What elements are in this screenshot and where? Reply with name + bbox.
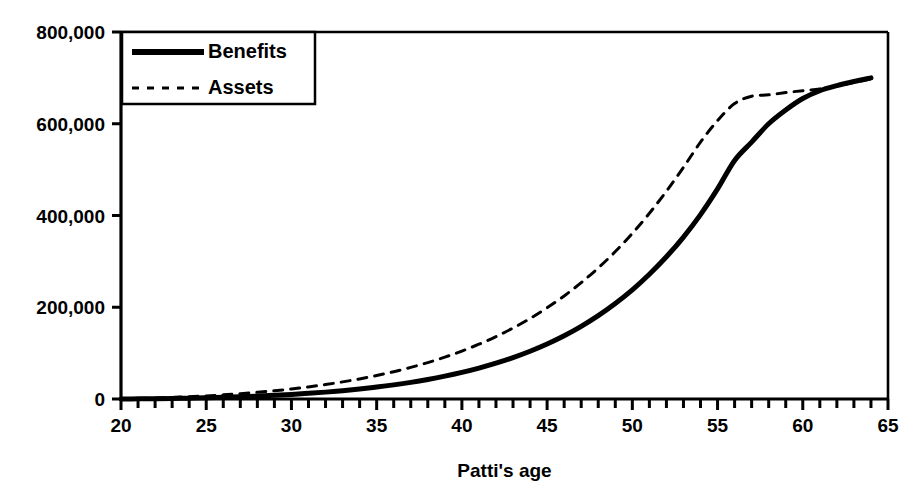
y-axis-tick-label: 600,000 [36,114,105,135]
x-axis-tick-label: 50 [622,415,643,436]
y-axis-tick-label: 800,000 [36,22,105,43]
x-axis-ticks [121,399,888,410]
x-axis-tick-label: 25 [196,415,218,436]
y-axis-tick-label: 200,000 [36,297,105,318]
x-axis-tick-label: 30 [281,415,302,436]
x-axis-tick-labels: 20253035404550556065 [110,415,899,436]
x-axis-tick-label: 20 [110,415,131,436]
x-axis-title: Patti's age [457,460,551,481]
x-axis-tick-label: 40 [451,415,472,436]
series-line-benefits [121,78,871,399]
y-axis-tick-labels: 0200,000400,000600,000800,000 [36,22,105,410]
x-axis-tick-label: 35 [366,415,388,436]
legend-label-assets: Assets [208,76,274,98]
x-axis-tick-label: 60 [792,415,813,436]
legend-label-benefits: Benefits [208,40,287,62]
line-chart: 0200,000400,000600,000800,000 2025303540… [0,0,923,490]
series-line-assets [121,79,871,399]
y-axis-tick-label: 400,000 [36,206,105,227]
chart-container: 0200,000400,000600,000800,000 2025303540… [0,0,923,490]
x-axis-tick-label: 45 [537,415,559,436]
y-axis-tick-label: 0 [94,389,105,410]
x-axis-tick-label: 55 [707,415,729,436]
x-axis-tick-label: 65 [877,415,899,436]
chart-legend: BenefitsAssets [122,32,315,104]
data-series-layer [121,78,871,399]
